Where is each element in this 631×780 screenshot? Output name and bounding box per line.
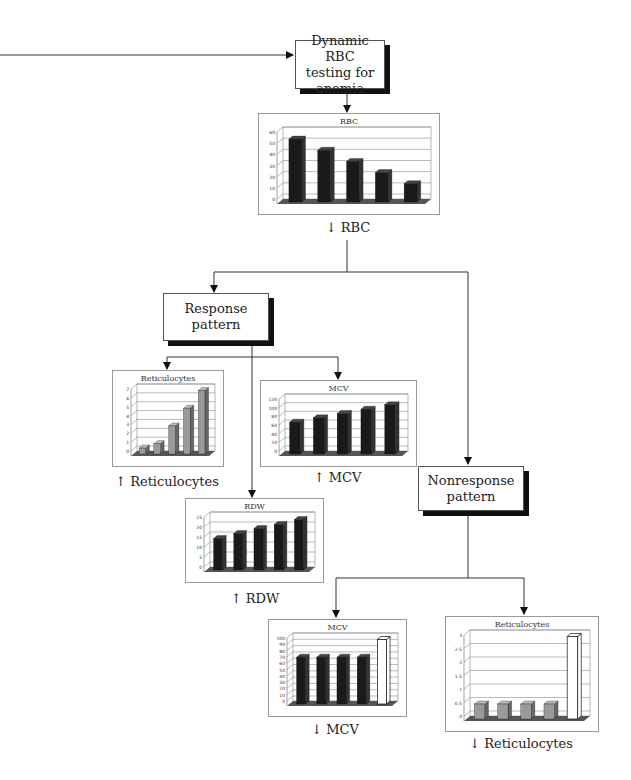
svg-text:15: 15 [196,535,202,540]
node-text-line2: pattern [192,317,241,333]
svg-text:100: 100 [268,406,277,411]
svg-text:3: 3 [126,422,129,427]
svg-text:7: 7 [126,387,129,392]
svg-text:10: 10 [196,545,202,550]
bar [313,415,327,454]
svg-text:2: 2 [126,431,129,436]
node-nonresponse-pattern: Nonresponse pattern [418,466,524,511]
node-text-line1: Dynamic RBC [296,33,384,65]
chart-mcv-up: MCV 020406080100120 [260,380,417,467]
chart-rdw-up: RDW 0510152025 [185,498,324,583]
bar [404,181,421,202]
svg-text:50: 50 [279,668,285,673]
node-dynamic-rbc-testing: Dynamic RBC testing for anemia [295,40,385,89]
bar [377,637,390,705]
svg-text:2.5: 2.5 [455,647,462,652]
bar [318,147,335,202]
svg-text:3: 3 [459,633,462,638]
svg-text:80: 80 [279,649,285,654]
svg-text:0: 0 [459,714,462,719]
bar [254,526,267,571]
node-text-line1: Nonresponse [427,473,514,489]
svg-text:0: 0 [272,197,275,202]
caption-reticulocytes-up: ↑ Reticulocytes [112,474,222,489]
svg-text:20: 20 [279,686,285,691]
svg-text:2: 2 [459,660,462,665]
svg-text:0: 0 [126,449,129,454]
bar-plot: 00.511.522.53 [446,617,598,731]
node-text-line2: testing for anemia [296,65,384,97]
bar [347,158,364,202]
chart-rbc: RBC 0102030405060 [258,113,440,215]
svg-text:5: 5 [126,405,129,410]
svg-text:40: 40 [279,674,285,679]
bar [289,136,306,202]
svg-text:100: 100 [276,636,285,641]
node-text-line1: Response [184,301,247,317]
bar [521,701,535,719]
svg-text:4: 4 [126,414,129,419]
bar [474,701,488,719]
svg-text:60: 60 [271,423,277,428]
svg-text:0.5: 0.5 [455,701,462,706]
svg-text:20: 20 [269,175,275,180]
bar-plot: 0102030405060708090100 [269,620,406,716]
svg-text:0: 0 [199,565,202,570]
svg-text:0: 0 [274,449,277,454]
svg-text:30: 30 [279,680,285,685]
chart-mcv-down: MCV 0102030405060708090100 [268,619,407,717]
bar [337,411,351,455]
svg-text:20: 20 [196,525,202,530]
bar [198,388,208,455]
svg-text:40: 40 [269,152,275,157]
svg-text:10: 10 [269,186,275,191]
bar [294,517,307,571]
svg-text:1: 1 [126,440,129,445]
svg-text:1: 1 [459,687,462,692]
node-response-pattern: Response pattern [163,293,269,341]
bar [375,170,392,202]
svg-text:1.5: 1.5 [455,674,462,679]
bar-plot: 01234567 [113,371,223,466]
bar-plot: 0102030405060 [259,114,439,214]
bar [169,423,179,454]
bar [214,536,227,571]
bar [567,634,581,720]
node-text-line2: pattern [447,489,496,505]
svg-text:30: 30 [269,164,275,169]
bar [234,531,247,571]
chart-reticulocytes-down: Reticulocytes 00.511.522.53 [445,616,599,732]
caption-reticulocytes-down: ↓ Reticulocytes [445,736,597,751]
bar [154,441,164,454]
svg-text:6: 6 [126,396,129,401]
bar [361,406,375,454]
caption-mcv-up: ↑ MCV [300,470,375,485]
svg-text:40: 40 [271,432,277,437]
svg-text:80: 80 [271,414,277,419]
bar [385,402,399,454]
svg-text:60: 60 [269,130,275,135]
bar [317,654,330,704]
svg-text:5: 5 [199,555,202,560]
svg-text:25: 25 [196,515,202,520]
svg-text:10: 10 [279,693,285,698]
caption-mcv-down: ↓ MCV [300,722,370,737]
bar [357,654,370,704]
caption-rbc-down: ↓ RBC [318,220,378,235]
bar [544,701,558,719]
svg-text:90: 90 [279,642,285,647]
caption-rdw-up: ↑ RDW [220,591,290,606]
svg-text:50: 50 [269,141,275,146]
bar-plot: 020406080100120 [261,381,416,466]
svg-text:70: 70 [279,655,285,660]
bar-plot: 0510152025 [186,499,323,582]
bar [498,701,512,719]
chart-reticulocytes-up: Reticulocytes 01234567 [112,370,224,467]
svg-text:120: 120 [268,397,277,402]
bar [337,654,350,704]
bar [183,405,193,454]
bar [290,419,304,454]
svg-text:60: 60 [279,661,285,666]
svg-text:20: 20 [271,440,277,445]
bar [297,654,310,704]
